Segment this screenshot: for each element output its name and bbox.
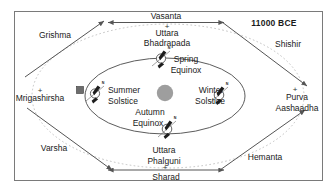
pole-label-spring-equinox: N (168, 47, 171, 51)
bottom-cross-mark: + (163, 163, 168, 172)
nakshatra-label-mrigashirsha: Mrigashirsha (16, 94, 65, 103)
orbit-point-autumn-equinox-line2: Equinox (133, 119, 164, 128)
pole-label-winter-solstice: N (226, 83, 229, 87)
pole-label-autumn-equinox: N (174, 117, 177, 121)
season-label-vasanta: Vasanta (151, 12, 182, 21)
orbit-point-summer-solstice-line2: Solstice (108, 97, 138, 106)
nakshatra-label-purva-aashaadha-line1: Purva (286, 93, 308, 102)
orbit-point-winter-solstice-line2: Solstice (195, 97, 225, 106)
right-cross-mark: + (293, 85, 298, 94)
era-label: 11000 BCE (251, 19, 296, 28)
orbit-point-autumn-equinox-line1: Autumn (135, 108, 164, 117)
season-label-grishma: Grishma (39, 31, 71, 40)
top-cross-mark: + (165, 22, 170, 31)
diagram-canvas: 11000 BCE Vasanta Grishma Shishir Varsha… (0, 0, 334, 192)
nakshatra-label-purva-aashaadha-line2: Aashaadha (275, 104, 318, 113)
sun-disc (157, 85, 173, 101)
season-label-shishir: Shishir (275, 40, 301, 49)
nakshatra-label-uttara-phalguni-line1: Uttara (152, 146, 175, 155)
orbit-point-spring-equinox-line1: Spring (174, 55, 199, 64)
season-label-sharad: Sharad (152, 173, 179, 182)
season-label-hemanta: Hemanta (248, 153, 283, 162)
observer-box-icon (77, 87, 84, 94)
orbit-point-summer-solstice-line1: Summer (108, 86, 140, 95)
season-label-varsha: Varsha (41, 144, 67, 153)
left-cross-mark: + (38, 86, 43, 95)
pole-label-summer-solstice: N (102, 82, 105, 86)
orbit-point-spring-equinox-line2: Equinox (171, 66, 202, 75)
orbit-point-winter-solstice-line1: Winter (199, 86, 224, 95)
